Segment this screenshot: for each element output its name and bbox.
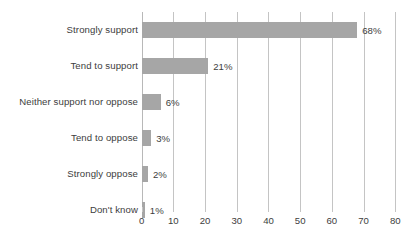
tick-mark-60 — [332, 207, 333, 212]
value-label-strongly-support: 68% — [362, 25, 381, 36]
tick-mark-80 — [395, 207, 396, 212]
category-label-strongly-oppose: Strongly oppose — [0, 168, 138, 179]
value-label-tend-to-oppose: 3% — [156, 133, 170, 144]
category-label-tend-to-support: Tend to support — [0, 60, 138, 71]
tick-mark-40 — [268, 207, 269, 212]
bar-tend-to-support — [142, 58, 209, 74]
tick-label-20: 20 — [200, 215, 211, 226]
plot-area: 68% 21% 6% 3% 2% 1% — [142, 12, 396, 207]
category-label-dont-know: Don't know — [0, 204, 138, 215]
tick-label-10: 10 — [168, 215, 179, 226]
tick-mark-10 — [173, 207, 174, 212]
tick-label-30: 30 — [231, 215, 242, 226]
value-label-strongly-oppose: 2% — [153, 169, 167, 180]
category-label-tend-to-oppose: Tend to oppose — [0, 132, 138, 143]
tick-label-80: 80 — [390, 215, 401, 226]
x-axis: 0 10 20 30 40 50 60 70 80 — [142, 207, 396, 239]
tick-mark-50 — [300, 207, 301, 212]
tick-label-0: 0 — [139, 215, 144, 226]
bar-strongly-oppose — [142, 166, 148, 182]
bar-tend-to-oppose — [142, 130, 152, 146]
tick-mark-0 — [142, 207, 143, 212]
value-label-neither-support-nor-oppose: 6% — [166, 97, 180, 108]
value-label-tend-to-support: 21% — [213, 61, 232, 72]
bars-layer — [142, 12, 396, 207]
category-label-strongly-support: Strongly support — [0, 24, 138, 35]
tick-label-40: 40 — [263, 215, 274, 226]
tick-mark-70 — [364, 207, 365, 212]
tick-label-50: 50 — [295, 215, 306, 226]
tick-label-70: 70 — [358, 215, 369, 226]
gridline-80 — [395, 12, 396, 207]
tick-mark-20 — [205, 207, 206, 212]
tick-mark-30 — [237, 207, 238, 212]
tick-label-60: 60 — [327, 215, 338, 226]
category-label-neither-support-nor-oppose: Neither support nor oppose — [0, 96, 138, 107]
category-label-column: Strongly support Tend to support Neither… — [0, 0, 138, 210]
bar-strongly-support — [142, 22, 358, 38]
bar-neither-support-nor-oppose — [142, 94, 161, 110]
bar-chart: Strongly support Tend to support Neither… — [0, 0, 412, 247]
